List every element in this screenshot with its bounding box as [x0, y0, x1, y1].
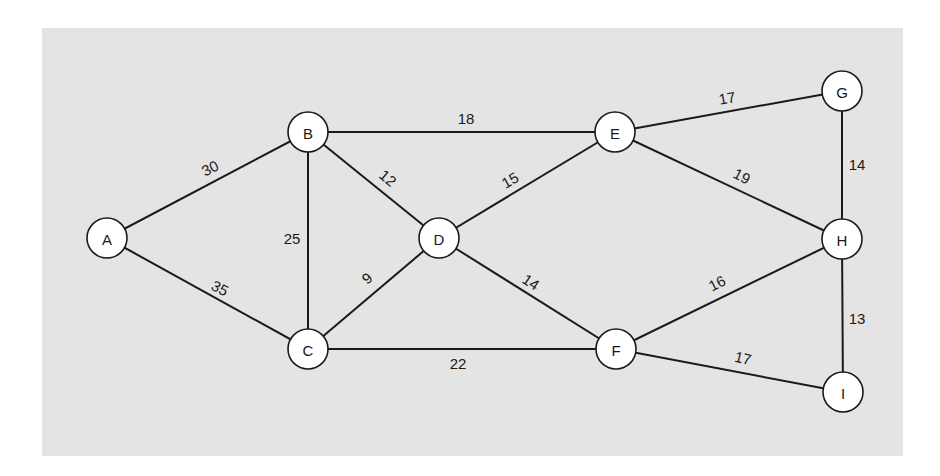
edge-line [439, 238, 616, 349]
node-b: B [288, 112, 328, 152]
edge-f-h [616, 239, 842, 349]
edge-weight-d-e: 15 [499, 168, 522, 191]
node-label: D [434, 231, 445, 248]
edge-f-i [616, 349, 843, 392]
edge-e-h [615, 132, 842, 239]
edge-line [615, 132, 842, 239]
edge-a-b [107, 132, 308, 238]
edge-weight-b-c: 25 [284, 230, 301, 247]
node-c: C [288, 329, 328, 369]
edge-a-c [107, 238, 308, 349]
node-f: F [596, 329, 636, 369]
node-g: G [822, 71, 862, 111]
edge-weight-e-g: 17 [717, 88, 736, 108]
node-a: A [87, 218, 127, 258]
node-label: I [841, 385, 845, 402]
node-label: E [610, 125, 620, 142]
edge-weight-b-d: 12 [376, 166, 400, 190]
edge-line [107, 132, 308, 238]
edge-d-e [439, 132, 615, 238]
node-i: I [823, 372, 863, 412]
edge-weight-b-e: 18 [458, 110, 475, 127]
edge-h-i [842, 239, 843, 392]
edge-line [308, 238, 439, 349]
edge-line [616, 239, 842, 349]
edge-weight-h-i: 13 [849, 310, 866, 327]
node-label: F [611, 342, 620, 359]
node-label: H [837, 232, 848, 249]
node-label: C [303, 342, 314, 359]
edge-weight-c-f: 22 [450, 355, 467, 372]
edge-line [439, 132, 615, 238]
node-e: E [595, 112, 635, 152]
node-h: H [822, 219, 862, 259]
node-label: A [102, 231, 112, 248]
edge-line [842, 239, 843, 392]
edge-weight-f-i: 17 [733, 348, 753, 368]
edge-weight-a-b: 30 [199, 157, 222, 180]
edge-weight-f-h: 16 [706, 272, 729, 295]
edge-weight-g-h: 14 [849, 156, 866, 173]
edge-c-d [308, 238, 439, 349]
graph-diagram: 30352512189221514171914161713 ABCDEFGHI [0, 0, 940, 476]
edges-layer [107, 91, 843, 392]
edge-line [308, 132, 439, 238]
edge-b-d [308, 132, 439, 238]
edge-weight-c-d: 9 [358, 269, 375, 287]
edge-d-f [439, 238, 616, 349]
node-d: D [419, 218, 459, 258]
edge-line [616, 349, 843, 392]
node-label: G [836, 84, 848, 101]
edge-line [107, 238, 308, 349]
edge-weight-e-h: 19 [731, 165, 754, 188]
node-label: B [303, 125, 313, 142]
